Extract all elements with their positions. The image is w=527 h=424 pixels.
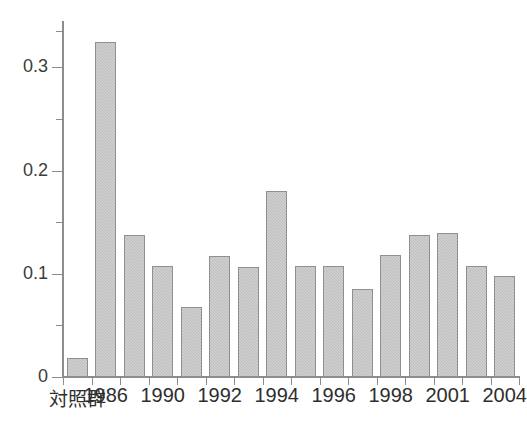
y-tick-major: 0.1 (52, 274, 63, 275)
bar (181, 307, 202, 377)
x-axis-label: 1996 (312, 384, 357, 407)
y-tick-minor (56, 119, 63, 120)
x-axis-label: 2004 (483, 384, 527, 407)
bar (494, 276, 515, 377)
bar (380, 255, 401, 377)
bar (437, 233, 458, 377)
bar (152, 266, 173, 377)
bar (352, 289, 373, 377)
y-tick-major: 0 (52, 377, 63, 378)
bar (209, 256, 230, 377)
y-tick-minor (56, 222, 63, 223)
y-tick-label: 0 (38, 366, 48, 387)
x-axis-label: 1986 (84, 384, 129, 407)
x-axis-label: 1998 (369, 384, 414, 407)
bar (266, 191, 287, 377)
y-tick-minor (56, 325, 63, 326)
bar-chart: 00.10.20.3 対照群19861990199219941996199820… (0, 0, 527, 424)
y-tick-label: 0.2 (23, 160, 48, 181)
bar (323, 266, 344, 377)
y-tick-label: 0.3 (23, 56, 48, 77)
bar (466, 266, 487, 377)
x-axis-label: 2001 (426, 384, 471, 407)
y-tick-major: 0.3 (52, 67, 63, 68)
y-tick-minor (56, 31, 63, 32)
y-tick-label: 0.1 (23, 263, 48, 284)
bar (238, 267, 259, 377)
x-axis-label: 1990 (141, 384, 186, 407)
x-axis-label: 1992 (198, 384, 243, 407)
bar (124, 235, 145, 377)
bar (67, 358, 88, 377)
y-tick-major: 0.2 (52, 171, 63, 172)
bar (95, 42, 116, 377)
bar (409, 235, 430, 377)
plot-area (63, 21, 519, 377)
bar (295, 266, 316, 377)
x-axis-label: 1994 (255, 384, 300, 407)
